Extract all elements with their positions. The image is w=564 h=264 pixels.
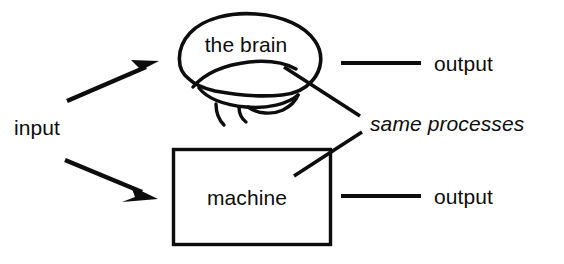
output-label-machine: output	[434, 185, 493, 208]
same-processes-annotation: same processes	[370, 112, 525, 135]
arrow-down-right-icon	[65, 160, 158, 202]
brain-label: the brain	[205, 33, 288, 56]
machine-label: machine	[207, 186, 287, 209]
diagram-illustration: input the brain machine output output sa…	[0, 0, 564, 264]
brain-icon	[179, 14, 320, 125]
diagram-canvas: input the brain machine output output sa…	[0, 0, 564, 264]
input-label: input	[14, 116, 60, 139]
arrow-up-right-icon	[67, 60, 159, 101]
output-label-brain: output	[434, 52, 493, 75]
